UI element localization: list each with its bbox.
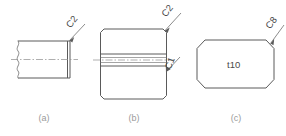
drawing-canvas: C2 (a) C2 C1 (b)	[0, 0, 286, 136]
panel-a: C2 (a)	[11, 13, 85, 123]
panel-b-c2-label: C2	[159, 2, 175, 18]
panel-c-caption: (c)	[231, 113, 242, 123]
panel-b-body-outline	[101, 29, 167, 99]
panel-a-caption: (a)	[39, 113, 50, 123]
panel-b-caption: (b)	[129, 113, 140, 123]
panel-c-c8-label: C8	[263, 14, 279, 30]
panel-c-inner-text: t10	[227, 59, 240, 70]
technical-drawing-figure: C2 (a) C2 C1 (b)	[0, 0, 286, 136]
panel-c: t10 C8 (c)	[197, 14, 284, 123]
panel-a-c2-label: C2	[63, 13, 79, 29]
panel-b: C2 C1 (b)	[93, 2, 181, 123]
